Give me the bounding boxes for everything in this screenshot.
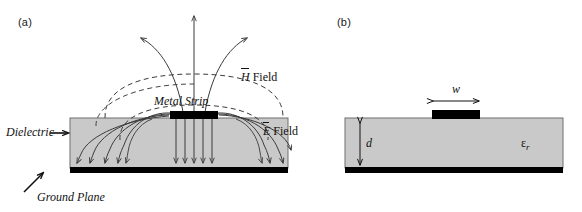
panel-b-ground-plane bbox=[345, 167, 563, 173]
relative-permittivity-label: εr bbox=[521, 136, 530, 152]
panel-b-graphics bbox=[0, 0, 582, 212]
panel-b-metal-strip bbox=[432, 110, 480, 119]
panel-b-dielectric-substrate bbox=[345, 118, 563, 168]
strip-width-label: w bbox=[452, 82, 460, 97]
microstrip-figure: (a) bbox=[0, 0, 582, 212]
permittivity-subscript: r bbox=[526, 142, 530, 152]
substrate-thickness-label: d bbox=[366, 136, 372, 151]
